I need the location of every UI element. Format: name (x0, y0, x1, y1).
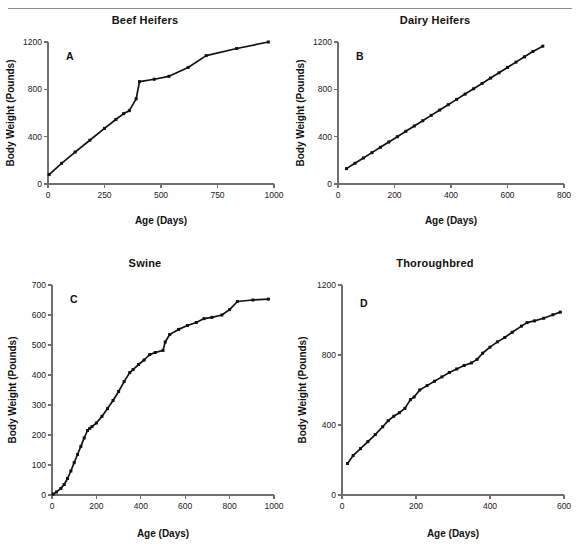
x-tick-label: 200 (89, 501, 103, 511)
panel-a-svg: 0400800120002505007501000Age (Days)Body … (0, 28, 290, 228)
data-point-marker (366, 440, 369, 443)
x-tick-label: 500 (154, 190, 168, 200)
data-point-marker (498, 71, 501, 74)
data-point-marker (503, 336, 506, 339)
data-point-marker (167, 75, 170, 78)
data-point-marker (433, 380, 436, 383)
data-point-marker (177, 328, 180, 331)
data-point-marker (387, 140, 390, 143)
data-point-marker (476, 358, 479, 361)
x-tick-label: 400 (134, 501, 148, 511)
data-point-marker (559, 311, 562, 314)
y-tick-label: 300 (32, 400, 46, 410)
y-tick-label: 700 (32, 280, 46, 290)
data-point-marker (551, 313, 554, 316)
x-tick-label: 0 (340, 501, 345, 511)
data-point-marker (489, 346, 492, 349)
y-axis-title: Body Weight (Pounds) (7, 336, 18, 443)
top-divider-rule (8, 8, 572, 9)
data-point-marker (210, 316, 213, 319)
data-point-marker (409, 398, 412, 401)
data-point-marker (100, 415, 103, 418)
data-point-marker (88, 139, 91, 142)
data-point-marker (60, 162, 63, 165)
series-line (49, 42, 268, 175)
data-point-marker (128, 109, 131, 112)
data-point-marker (345, 167, 348, 170)
panel-letter: B (356, 50, 364, 62)
data-point-marker (418, 389, 421, 392)
data-point-marker (73, 461, 76, 464)
y-tick-label: 1200 (317, 280, 336, 290)
data-point-marker (168, 333, 171, 336)
data-point-marker (489, 77, 492, 80)
y-tick-label: 400 (318, 132, 332, 142)
panel-a-title: Beef Heifers (0, 12, 290, 28)
data-point-marker (398, 411, 401, 414)
data-point-marker (114, 118, 117, 121)
data-point-marker (541, 45, 544, 48)
data-point-marker (520, 325, 523, 328)
data-point-marker (195, 321, 198, 324)
y-tick-label: 500 (32, 340, 46, 350)
data-point-marker (362, 156, 365, 159)
x-tick-label: 750 (210, 190, 224, 200)
y-tick-label: 800 (318, 84, 332, 94)
data-point-marker (228, 308, 231, 311)
panel-b-title: Dairy Heifers (290, 12, 580, 28)
panel-letter: A (66, 50, 74, 62)
x-tick-label: 600 (500, 190, 514, 200)
data-point-marker (387, 419, 390, 422)
data-point-marker (481, 82, 484, 85)
y-tick-label: 800 (322, 350, 336, 360)
x-tick-label: 1000 (265, 190, 284, 200)
x-tick-label: 200 (409, 501, 423, 511)
data-point-marker (421, 119, 424, 122)
data-point-marker (55, 491, 58, 494)
data-point-marker (430, 114, 433, 117)
panel-letter: C (70, 293, 78, 305)
data-point-marker (463, 364, 466, 367)
data-point-marker (69, 470, 72, 473)
panel-c-svg: 010020030040050060070002004006008001000A… (0, 271, 290, 541)
data-point-marker (52, 493, 55, 496)
data-point-marker (267, 41, 270, 44)
data-point-marker (413, 125, 416, 128)
x-axis-title: Age (Days) (137, 528, 189, 539)
data-point-marker (353, 162, 356, 165)
y-tick-label: 1200 (313, 37, 332, 47)
data-point-marker (154, 351, 157, 354)
x-tick-label: 600 (178, 501, 192, 511)
data-point-marker (359, 447, 362, 450)
y-axis-title: Body Weight (Pounds) (297, 336, 308, 443)
panel-b-svg: 040080012000200400600800Age (Days)Body W… (290, 28, 580, 228)
data-point-marker (542, 317, 545, 320)
x-axis-title: Age (Days) (135, 215, 187, 226)
data-point-marker (251, 299, 254, 302)
data-point-marker (426, 384, 429, 387)
panel-d-plot: 040080012000200400600Age (Days)Body Weig… (290, 271, 580, 541)
data-point-marker (346, 462, 349, 465)
data-point-marker (153, 78, 156, 81)
data-point-marker (59, 487, 62, 490)
x-tick-label: 800 (223, 501, 237, 511)
data-point-marker (470, 361, 473, 364)
data-point-marker (112, 399, 115, 402)
data-point-marker (95, 422, 98, 425)
data-point-marker (143, 359, 146, 362)
data-point-marker (531, 50, 534, 53)
data-point-marker (514, 61, 517, 64)
panel-c-plot: 010020030040050060070002004006008001000A… (0, 271, 290, 541)
panel-d-thoroughbred: Thoroughbred 040080012000200400600Age (D… (290, 255, 580, 544)
data-point-marker (472, 87, 475, 90)
y-tick-label: 600 (32, 310, 46, 320)
y-tick-label: 0 (331, 490, 336, 500)
data-point-marker (381, 425, 384, 428)
x-tick-label: 800 (557, 190, 571, 200)
data-point-marker (526, 321, 529, 324)
x-tick-label: 600 (557, 501, 571, 511)
panel-letter: D (360, 297, 368, 309)
panel-d-title: Thoroughbred (290, 255, 580, 271)
data-point-marker (379, 146, 382, 149)
series-line (348, 312, 561, 463)
